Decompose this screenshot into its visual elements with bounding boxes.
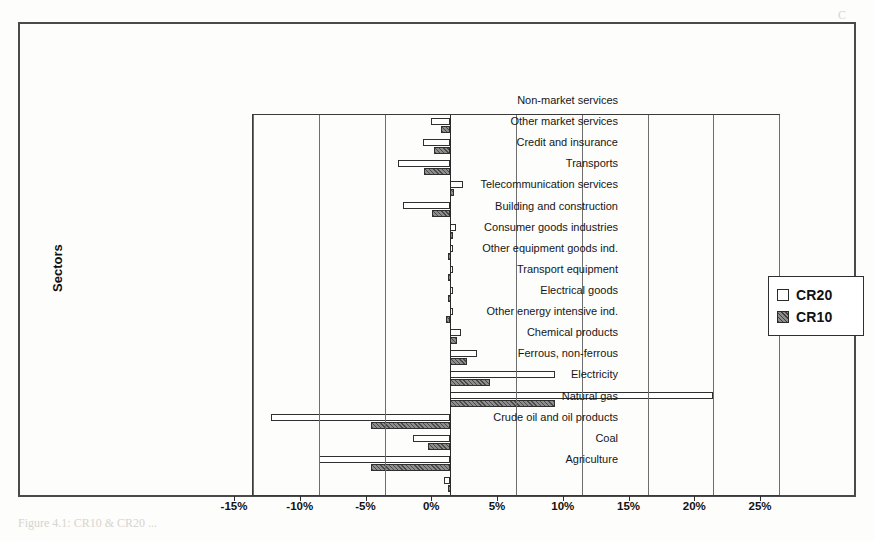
- bar-cr10: [450, 379, 489, 386]
- chart-screenshot: C Figure 4.1: CR10 & CR20 ... Sectors No…: [0, 0, 874, 541]
- y-axis-title: Sectors: [50, 244, 65, 292]
- category-label: Other energy intensive ind.: [487, 305, 618, 317]
- category-label: Non-market services: [517, 94, 618, 106]
- category-label: Crude oil and oil products: [493, 411, 618, 423]
- bar-cr10: [371, 464, 450, 471]
- x-tick-label: 25%: [748, 500, 771, 512]
- scan-artifact: C: [838, 8, 846, 23]
- category-label: Electricity: [571, 368, 618, 380]
- bar-cr20: [423, 139, 451, 146]
- chart-frame: Sectors Non-market servicesOther market …: [18, 22, 856, 497]
- x-tick-label: 5%: [489, 500, 506, 512]
- x-tick-label: -5%: [355, 500, 375, 512]
- bar-cr20: [450, 350, 476, 357]
- category-label: Electrical goods: [540, 284, 618, 296]
- legend-swatch-cr10: [777, 311, 789, 323]
- gridline-neg5: [385, 115, 386, 495]
- bar-cr10: [424, 168, 450, 175]
- scan-artifact: Figure 4.1: CR10 & CR20 ...: [18, 516, 157, 531]
- bar-cr20: [450, 329, 461, 336]
- gridline-neg15: [253, 115, 254, 495]
- category-label: Other equipment goods ind.: [482, 242, 618, 254]
- x-tick-label: 20%: [683, 500, 706, 512]
- gridline-neg10: [319, 115, 320, 495]
- x-tick-label: -15%: [221, 500, 248, 512]
- category-label: Transports: [566, 157, 618, 169]
- category-label: Telecommunication services: [480, 178, 618, 190]
- category-label: Chemical products: [527, 326, 618, 338]
- bar-cr20: [450, 181, 463, 188]
- category-label: Other market services: [510, 115, 618, 127]
- bar-cr20: [398, 160, 451, 167]
- legend-swatch-cr20: [777, 289, 789, 301]
- bar-cr10: [450, 400, 555, 407]
- x-tick-label: 0%: [423, 500, 440, 512]
- category-label: Credit and insurance: [516, 136, 618, 148]
- bar-cr10: [434, 147, 450, 154]
- x-tick-label: 15%: [617, 500, 640, 512]
- bar-cr20: [431, 118, 451, 125]
- category-label: Natural gas: [562, 390, 618, 402]
- bar-cr20: [413, 435, 450, 442]
- chart-legend: CR20 CR10: [768, 276, 864, 336]
- x-tick-label: 10%: [551, 500, 574, 512]
- category-label: Agriculture: [565, 453, 618, 465]
- x-tick-label: -10%: [286, 500, 313, 512]
- category-label: Transport equipment: [517, 263, 618, 275]
- bar-cr20: [444, 477, 451, 484]
- zero-axis-line: [450, 115, 451, 495]
- bar-cr10: [371, 422, 450, 429]
- legend-label-cr10: CR10: [796, 309, 833, 325]
- legend-label-cr20: CR20: [796, 287, 833, 303]
- bar-cr20: [403, 202, 450, 209]
- category-label: Consumer goods industries: [484, 221, 618, 233]
- bar-cr10: [428, 443, 450, 450]
- gridline-20: [713, 115, 714, 495]
- bar-cr10: [432, 210, 450, 217]
- legend-item-cr20: CR20: [777, 284, 855, 306]
- gridline-15: [648, 115, 649, 495]
- bar-cr20: [450, 371, 555, 378]
- bar-cr20: [271, 414, 450, 421]
- bar-cr10: [441, 126, 450, 133]
- category-label: Ferrous, non-ferrous: [518, 347, 618, 359]
- bar-cr10: [450, 358, 467, 365]
- category-label: Building and construction: [495, 200, 618, 212]
- legend-item-cr10: CR10: [777, 306, 855, 328]
- category-label: Coal: [595, 432, 618, 444]
